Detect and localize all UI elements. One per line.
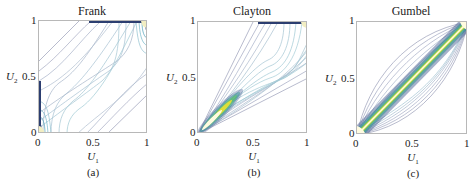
x-tick-0.5: 0.5 [405, 138, 419, 149]
plot-area [356, 21, 467, 134]
contour-plot [198, 22, 307, 133]
x-axis-label: U1 [398, 151, 428, 166]
panel-title: Clayton [197, 4, 307, 19]
panel-caption: (b) [239, 166, 269, 178]
x-tick-0: 0 [194, 137, 200, 148]
y-axis-label: U2 [325, 72, 336, 87]
plot-area [197, 21, 307, 133]
panel-title: Gumbel [356, 4, 466, 19]
y-tick-1: 1 [190, 15, 196, 26]
plot-area [38, 20, 147, 133]
y-tick-0.5: 0.5 [22, 71, 36, 82]
panel-caption: (a) [78, 166, 108, 178]
x-tick-0: 0 [353, 138, 359, 149]
y-tick-0.5: 0.5 [182, 72, 196, 83]
panel-clayton: Clayton 1 0.5 0 U2 [155, 0, 315, 189]
x-tick-0.5: 0.5 [246, 137, 260, 148]
x-tick-0.5: 0.5 [86, 137, 100, 148]
y-tick-1: 1 [31, 15, 37, 26]
y-axis-label: U2 [166, 71, 177, 86]
x-tick-0: 0 [35, 137, 41, 148]
panel-gumbel: Gumbel 1 0.5 0 U2 [310, 0, 474, 189]
panel-frank: Frank 1 0.5 0 U2 [0, 0, 160, 189]
x-axis-label: U1 [239, 150, 269, 165]
y-tick-0.5: 0.5 [341, 73, 355, 84]
panel-caption: (c) [398, 167, 428, 179]
x-axis-label: U1 [78, 150, 108, 165]
x-tick-1: 1 [464, 138, 470, 149]
panel-title: Frank [37, 4, 147, 19]
y-tick-1: 1 [349, 15, 355, 26]
x-tick-1: 1 [144, 137, 150, 148]
y-axis-label: U2 [6, 70, 17, 85]
contour-plot [357, 22, 467, 134]
x-tick-1: 1 [304, 137, 310, 148]
contour-plot [39, 21, 147, 133]
